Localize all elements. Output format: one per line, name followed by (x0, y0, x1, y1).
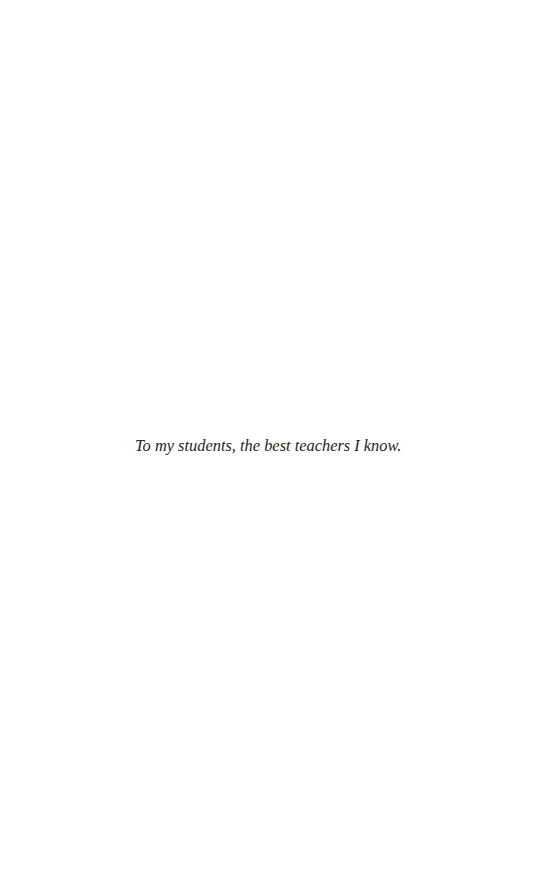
book-page: To my students, the best teachers I know… (0, 0, 541, 880)
dedication-text: To my students, the best teachers I know… (135, 436, 395, 456)
